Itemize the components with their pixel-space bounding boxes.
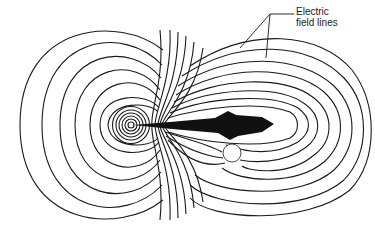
annotation-leader-lines: [240, 14, 294, 58]
field-lines-annotation: Electric field lines: [296, 6, 338, 28]
electric-field-diagram: [0, 0, 375, 233]
electric-fish: [133, 111, 274, 140]
annotation-line-2: field lines: [296, 17, 338, 28]
nearby-object: [223, 144, 241, 162]
annotation-line-1: Electric: [296, 6, 338, 17]
